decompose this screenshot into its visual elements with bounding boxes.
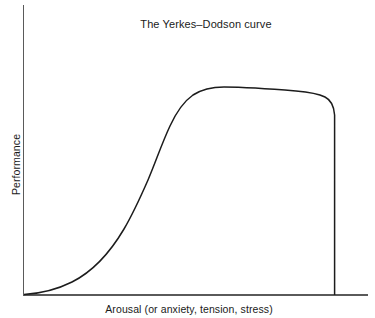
- yerkes-dodson-chart-figure: The Yerkes–Dodson curve Arousal (or anxi…: [0, 0, 375, 318]
- chart-background: [0, 0, 375, 318]
- x-axis-label: Arousal (or anxiety, tension, stress): [39, 303, 339, 316]
- chart-title: The Yerkes–Dodson curve: [66, 18, 346, 31]
- chart-plot-area: [0, 0, 375, 318]
- y-axis-label: Performance: [10, 125, 23, 205]
